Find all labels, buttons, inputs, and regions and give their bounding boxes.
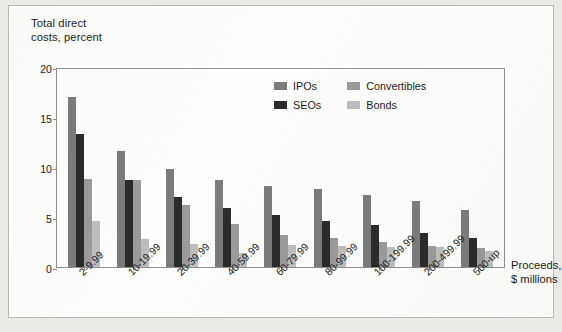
y-axis-tick-mark bbox=[53, 119, 57, 120]
chart-legend: IPOsConvertiblesSEOsBonds bbox=[274, 80, 426, 111]
legend-label: SEOs bbox=[293, 99, 321, 111]
bar-seos bbox=[125, 180, 133, 267]
bar-seos bbox=[76, 134, 84, 267]
legend-swatch-icon bbox=[347, 82, 360, 90]
legend-swatch-icon bbox=[274, 82, 287, 90]
bar-group bbox=[207, 69, 256, 267]
bar-seos bbox=[223, 208, 231, 267]
bar-ipos bbox=[166, 169, 174, 267]
y-axis-tick-label: 10 bbox=[34, 163, 52, 175]
bar-ipos bbox=[314, 189, 322, 267]
legend-label: Convertibles bbox=[366, 80, 426, 92]
bar-seos bbox=[174, 197, 182, 267]
y-axis-tick-label: 5 bbox=[34, 213, 52, 225]
bar-seos bbox=[469, 238, 477, 267]
bar-seos bbox=[272, 215, 280, 267]
legend-label: IPOs bbox=[293, 80, 317, 92]
chart-panel: Total direct costs, percent 05101520 2-9… bbox=[8, 5, 554, 318]
bar-group bbox=[108, 69, 157, 267]
y-axis-tick-mark bbox=[53, 219, 57, 220]
bar-ipos bbox=[215, 180, 223, 267]
legend-swatch-icon bbox=[347, 101, 360, 109]
bar-ipos bbox=[68, 97, 76, 267]
legend-swatch-icon bbox=[274, 101, 287, 109]
bar-seos bbox=[420, 233, 428, 267]
legend-item-seos: SEOs bbox=[274, 99, 321, 111]
bar-ipos bbox=[412, 201, 420, 267]
y-axis-tick-mark bbox=[53, 69, 57, 70]
y-axis-tick-label: 20 bbox=[34, 63, 52, 75]
x-axis-tick-labels: 2-9.9910-19.9920-39.9940-59.9960-79.9980… bbox=[56, 270, 505, 330]
bar-ipos bbox=[117, 151, 125, 267]
y-axis-tick-label: 0 bbox=[34, 263, 52, 275]
y-axis-tick-label: 15 bbox=[34, 113, 52, 125]
x-axis-title: Proceeds, $ millions bbox=[511, 258, 561, 286]
bar-convertibles bbox=[133, 180, 141, 267]
bar-ipos bbox=[264, 186, 272, 267]
bar-group bbox=[157, 69, 206, 267]
legend-item-bonds: Bonds bbox=[347, 99, 426, 111]
y-axis-tick-mark bbox=[53, 169, 57, 170]
bar-group bbox=[59, 69, 108, 267]
bar-ipos bbox=[363, 195, 371, 267]
bar-seos bbox=[371, 225, 379, 267]
legend-label: Bonds bbox=[366, 99, 397, 111]
bar-convertibles bbox=[84, 179, 92, 267]
legend-item-convertibles: Convertibles bbox=[347, 80, 426, 92]
bar-seos bbox=[322, 221, 330, 267]
y-axis-title: Total direct costs, percent bbox=[31, 16, 102, 44]
legend-item-ipos: IPOs bbox=[274, 80, 321, 92]
